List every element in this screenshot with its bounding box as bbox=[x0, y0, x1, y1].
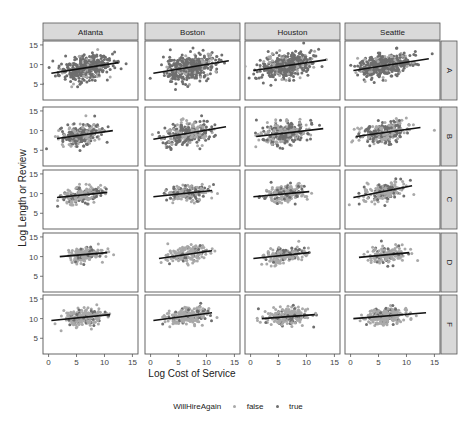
panel-c-seattle bbox=[345, 170, 440, 229]
strip-row-label-d: D bbox=[445, 260, 454, 266]
row-strips: ABCDF bbox=[441, 41, 457, 354]
x-tick-label: 15 bbox=[128, 358, 137, 367]
x-tick-label: 5 bbox=[276, 358, 281, 367]
panels bbox=[33, 41, 440, 354]
y-tick-label: 15 bbox=[29, 170, 38, 179]
legend: WillHireAgain false true bbox=[0, 402, 476, 411]
y-tick-label: 10 bbox=[29, 315, 38, 324]
strip-label-houston: Houston bbox=[278, 28, 308, 37]
x-tick-label: 10 bbox=[302, 358, 311, 367]
x-tick-label: 10 bbox=[402, 358, 411, 367]
y-tick-label: 10 bbox=[29, 253, 38, 262]
y-tick-label: 5 bbox=[34, 272, 39, 281]
x-tick-label: 5 bbox=[176, 358, 181, 367]
y-tick-label: 10 bbox=[29, 127, 38, 136]
strip-row-label-c: C bbox=[445, 197, 454, 203]
x-axis-title: Log Cost of Service bbox=[148, 368, 236, 379]
x-tick-label: 15 bbox=[230, 358, 239, 367]
x-tick-label: 0 bbox=[148, 358, 153, 367]
panel-d-atlanta bbox=[43, 233, 138, 292]
panel-f-seattle bbox=[345, 295, 440, 354]
panel-a-boston bbox=[145, 41, 240, 100]
y-tick-label: 15 bbox=[29, 107, 38, 116]
faceted-scatter-chart: AtlantaBostonHoustonSeattle ABCDF 510155… bbox=[0, 0, 476, 428]
y-tick-label: 5 bbox=[34, 80, 39, 89]
x-tick-label: 10 bbox=[202, 358, 211, 367]
x-tick-label: 0 bbox=[348, 358, 353, 367]
y-tick-label: 5 bbox=[34, 209, 39, 218]
strip-label-boston: Boston bbox=[180, 28, 205, 37]
panel-a-seattle bbox=[345, 41, 440, 100]
panel-f-atlanta bbox=[43, 295, 138, 354]
panel-d-houston bbox=[245, 233, 340, 292]
legend-true-marker-icon bbox=[276, 405, 279, 408]
strip-label-atlanta: Atlanta bbox=[78, 28, 103, 37]
panel-f-houston bbox=[245, 295, 340, 354]
y-tick-label: 10 bbox=[29, 61, 38, 70]
x-tick-label: 0 bbox=[46, 358, 51, 367]
strip-row-label-f: F bbox=[445, 322, 454, 327]
x-tick-label: 5 bbox=[376, 358, 381, 367]
panel-b-boston bbox=[145, 107, 240, 166]
y-tick-label: 15 bbox=[29, 295, 38, 304]
x-tick-label: 10 bbox=[100, 358, 109, 367]
y-axis-title: Log Length or Review bbox=[17, 149, 28, 247]
panel-d-seattle bbox=[345, 233, 440, 292]
panel-c-atlanta bbox=[43, 170, 138, 229]
panel-a-houston bbox=[244, 41, 340, 100]
legend-title: WillHireAgain bbox=[173, 402, 221, 411]
y-tick-label: 5 bbox=[34, 146, 39, 155]
panel-c-boston bbox=[145, 170, 240, 229]
x-tick-label: 0 bbox=[248, 358, 253, 367]
panel-f-boston bbox=[145, 295, 240, 354]
column-strips: AtlantaBostonHoustonSeattle bbox=[43, 23, 440, 40]
panel-b-seattle bbox=[345, 107, 440, 166]
legend-false-marker-icon bbox=[233, 405, 236, 408]
y-tick-label: 5 bbox=[34, 334, 39, 343]
y-tick-label: 10 bbox=[29, 190, 38, 199]
panel-b-houston bbox=[245, 107, 340, 166]
strip-row-label-a: A bbox=[445, 68, 454, 74]
y-tick-label: 15 bbox=[29, 41, 38, 50]
x-tick-label: 15 bbox=[330, 358, 339, 367]
x-tick-label: 15 bbox=[430, 358, 439, 367]
strip-label-seattle: Seattle bbox=[380, 28, 405, 37]
x-axes: 051015051015051015051015 bbox=[46, 354, 439, 367]
legend-false-label: false bbox=[247, 402, 264, 411]
y-axes: 5101551015510155101551015 bbox=[29, 41, 43, 343]
panel-b-atlanta bbox=[43, 107, 138, 166]
y-tick-label: 15 bbox=[29, 233, 38, 242]
panel-c-houston bbox=[245, 170, 340, 229]
panel-d-boston bbox=[145, 233, 240, 292]
legend-true-label: true bbox=[289, 402, 303, 411]
strip-row-label-b: B bbox=[445, 134, 454, 139]
x-tick-label: 5 bbox=[74, 358, 79, 367]
panel-a-atlanta bbox=[33, 41, 138, 100]
